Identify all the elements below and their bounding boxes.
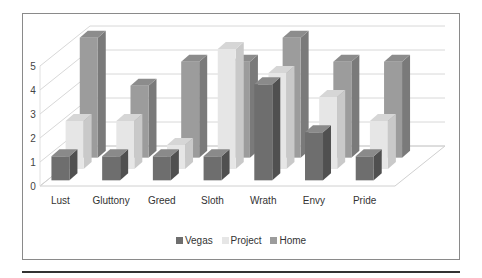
x-category-label: Sloth bbox=[201, 195, 224, 206]
x-category-label: Gluttony bbox=[92, 195, 129, 206]
bar bbox=[254, 84, 272, 180]
bar bbox=[356, 156, 374, 180]
legend-swatch-project bbox=[222, 237, 229, 244]
legend-item-vegas: Vegas bbox=[176, 235, 213, 246]
legend-swatch-home bbox=[270, 237, 277, 244]
legend-swatch-vegas bbox=[176, 237, 183, 244]
y-tick-label: 0 bbox=[30, 181, 36, 192]
bar bbox=[204, 156, 222, 180]
y-tick-label: 3 bbox=[30, 109, 36, 120]
bar bbox=[102, 156, 120, 180]
legend-item-home: Home bbox=[270, 235, 306, 246]
legend: Vegas Project Home bbox=[0, 235, 482, 246]
legend-label: Home bbox=[279, 235, 306, 246]
y-tick-label: 2 bbox=[30, 133, 36, 144]
legend-item-project: Project bbox=[222, 235, 262, 246]
x-category-label: Wrath bbox=[250, 195, 277, 206]
separator-rule bbox=[22, 271, 460, 273]
y-tick-label: 4 bbox=[30, 85, 36, 96]
x-category-label: Pride bbox=[353, 195, 377, 206]
bar bbox=[305, 132, 323, 180]
bar bbox=[153, 156, 171, 180]
bar bbox=[51, 156, 69, 180]
x-category-label: Lust bbox=[51, 195, 70, 206]
legend-label: Vegas bbox=[185, 235, 213, 246]
x-category-label: Greed bbox=[148, 195, 176, 206]
legend-label: Project bbox=[231, 235, 262, 246]
x-category-label: Envy bbox=[303, 195, 325, 206]
y-tick-label: 5 bbox=[30, 61, 36, 72]
y-tick-label: 1 bbox=[30, 157, 36, 168]
